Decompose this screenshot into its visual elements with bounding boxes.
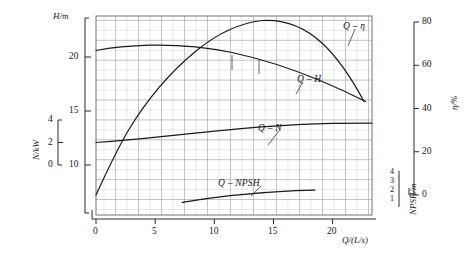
h-tick-10: 10 [69,160,79,170]
npsh-tick-2: 2 [390,186,394,194]
h-tick-20: 20 [69,52,79,62]
pump-performance-chart: H/m 20 15 10 N/kW 4 2 0 0 5 10 15 20 Q/(… [0,0,470,261]
n-tick-2: 2 [48,138,53,148]
eta-axis-label: η/% [450,96,459,110]
x-tick-0: 0 [93,227,98,237]
npsh-axis-label: NPSH/m [409,184,418,216]
x-tick-20: 20 [327,227,337,237]
n-axis-spine [58,120,63,165]
npsh-tick-4: 4 [390,168,394,176]
n-axis-label: N/kW [32,140,41,160]
x-tick-10: 10 [209,227,219,237]
eta-tick-60: 60 [422,60,432,70]
curve-label-q-n: Q – N [258,124,282,134]
h-axis-spine [85,18,91,213]
curve-label-q-h: Q – H [297,75,321,85]
curve-label-q-eta: Q – η [343,22,365,32]
eta-tick-40: 40 [422,104,432,114]
n-tick-0: 0 [48,160,53,170]
eta-tick-0: 0 [422,190,427,200]
x-tick-15: 15 [268,227,278,237]
eta-tick-80: 80 [422,17,432,27]
chart-canvas [0,0,470,261]
x-axis-label: Q/(L/s) [342,236,368,245]
curve-label-q-npsh: Q – NPSH [218,179,260,189]
h-tick-15: 15 [69,106,79,116]
eta-axis-spine [409,22,419,195]
npsh-tick-3: 3 [390,177,394,185]
eta-tick-20: 20 [422,147,432,157]
n-tick-4: 4 [48,115,53,125]
h-axis-label: H/m [53,12,69,21]
x-tick-5: 5 [152,227,157,237]
npsh-tick-1: 1 [390,195,394,203]
